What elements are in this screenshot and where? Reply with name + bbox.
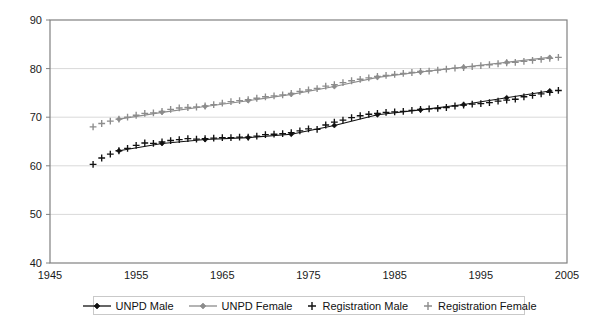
plus-marker xyxy=(314,85,321,92)
plot-border xyxy=(50,20,567,263)
plus-marker xyxy=(555,54,562,61)
chart-legend: UNPD MaleUNPD FemaleRegistration MaleReg… xyxy=(93,296,525,315)
plus-marker xyxy=(236,134,243,141)
plus-marker xyxy=(253,95,260,102)
y-tick-label: 80 xyxy=(30,63,42,75)
plus-marker xyxy=(228,134,235,141)
plus-marker xyxy=(391,71,398,78)
plus-marker xyxy=(262,93,269,100)
plus-marker xyxy=(210,135,217,142)
plus-marker xyxy=(202,135,209,142)
plus-marker xyxy=(460,64,467,71)
plus-marker xyxy=(245,96,252,103)
x-tick-label: 1955 xyxy=(124,269,148,281)
plus-marker xyxy=(107,151,114,158)
plus-marker xyxy=(202,103,209,110)
plus-marker xyxy=(452,65,459,72)
plus-marker xyxy=(228,98,235,105)
plus-marker xyxy=(141,140,148,147)
plus-marker xyxy=(409,69,416,76)
plus-marker xyxy=(262,131,269,138)
plus-marker xyxy=(521,58,528,65)
plus-marker xyxy=(503,59,510,66)
plus-marker xyxy=(434,105,441,112)
axes xyxy=(46,20,567,263)
plus-marker xyxy=(288,129,295,136)
plus-marker xyxy=(253,133,260,140)
plus-marker xyxy=(184,104,191,111)
plus-marker xyxy=(434,67,441,74)
y-tick-label: 50 xyxy=(30,208,42,220)
legend-item-registration-female[interactable]: Registration Female xyxy=(415,300,543,312)
plus-marker xyxy=(512,59,519,66)
line-diamond-gray-icon xyxy=(188,300,218,312)
plus-marker xyxy=(460,102,467,109)
plus-marker xyxy=(391,108,398,115)
legend-label: UNPD Male xyxy=(116,300,174,312)
legend-label: Registration Male xyxy=(322,300,408,312)
plus-marker xyxy=(150,109,157,116)
plus-marker xyxy=(529,57,536,64)
plus-marker xyxy=(98,155,105,162)
plus-marker xyxy=(219,100,226,107)
plus-marker xyxy=(159,108,166,115)
plus-marker xyxy=(116,147,123,154)
series-registration-male xyxy=(90,87,562,168)
plus-marker xyxy=(555,87,562,94)
plus-marker xyxy=(296,88,303,95)
plus-marker xyxy=(124,114,131,121)
plus-marker xyxy=(469,101,476,108)
x-axis-tick-labels: 1945195519651975198519952005 xyxy=(38,269,579,281)
plus-marker xyxy=(219,134,226,141)
plus-marker xyxy=(426,106,433,113)
plus-marker xyxy=(271,92,278,99)
line-diamond-dark-icon xyxy=(82,300,112,312)
x-tick-label: 1945 xyxy=(38,269,62,281)
plus-marker xyxy=(400,108,407,115)
legend-item-unpd-male[interactable]: UNPD Male xyxy=(75,300,181,312)
plus-marker xyxy=(98,120,105,127)
y-tick-label: 70 xyxy=(30,111,42,123)
x-tick-label: 1985 xyxy=(382,269,406,281)
plus-marker xyxy=(443,66,450,73)
plus-marker xyxy=(279,91,286,98)
plus-marker xyxy=(452,103,459,110)
plus-marker xyxy=(279,130,286,137)
plus-marker xyxy=(107,118,114,125)
plus-marker xyxy=(124,145,131,152)
plus-marker xyxy=(443,104,450,111)
x-tick-label: 1995 xyxy=(469,269,493,281)
plus-marker xyxy=(193,104,200,111)
y-tick-label: 60 xyxy=(30,160,42,172)
plus-marker xyxy=(90,124,97,131)
plus-marker xyxy=(538,56,545,63)
series-registration-female xyxy=(90,54,562,130)
x-tick-label: 2005 xyxy=(555,269,579,281)
legend-item-unpd-female[interactable]: UNPD Female xyxy=(181,300,300,312)
plus-marker xyxy=(495,60,502,67)
plus-marker xyxy=(546,89,553,96)
plus-dark-icon xyxy=(306,300,318,312)
y-axis-tick-labels: 405060708090 xyxy=(30,14,42,269)
plus-marker xyxy=(271,131,278,138)
plus-marker xyxy=(546,55,553,62)
y-tick-label: 40 xyxy=(30,257,42,269)
plus-marker xyxy=(383,109,390,116)
plus-marker xyxy=(193,136,200,143)
plus-marker xyxy=(314,126,321,133)
plus-marker xyxy=(486,61,493,68)
plus-marker xyxy=(245,134,252,141)
legend-label: UNPD Female xyxy=(222,300,293,312)
data-series xyxy=(90,54,562,168)
legend-item-registration-male[interactable]: Registration Male xyxy=(299,300,415,312)
legend-label: Registration Female xyxy=(438,300,536,312)
plus-marker xyxy=(383,72,390,79)
plus-marker xyxy=(400,70,407,77)
plus-marker xyxy=(90,161,97,168)
plus-marker xyxy=(210,101,217,108)
plus-marker xyxy=(374,73,381,80)
x-tick-label: 1965 xyxy=(210,269,234,281)
plus-marker xyxy=(305,87,312,94)
plus-marker xyxy=(236,97,243,104)
plus-marker xyxy=(417,68,424,75)
